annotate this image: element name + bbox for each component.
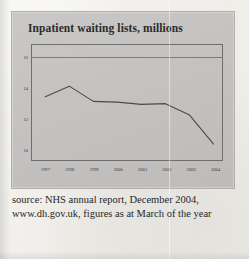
- y-tick-12: 12: [23, 116, 28, 121]
- y-tick-14: 14: [23, 86, 28, 91]
- x-tick-2000: 2000: [114, 167, 123, 172]
- y-tick-16: 16: [23, 55, 28, 60]
- x-tick-2002: 2002: [162, 167, 171, 172]
- bottom-edge-shadow: [0, 251, 249, 259]
- left-edge-shadow: [0, 0, 10, 259]
- x-tick-2003: 2003: [187, 167, 196, 172]
- data-series-line: [32, 45, 222, 161]
- plot-area: 16141210 1997199819992000200120022003200…: [31, 44, 223, 161]
- x-tick-1997: 1997: [41, 167, 50, 172]
- x-tick-1998: 1998: [65, 167, 74, 172]
- y-tick-10: 10: [23, 147, 28, 152]
- chart-figure-panel: Inpatient waiting lists, millions 161412…: [11, 11, 235, 189]
- x-tick-2001: 2001: [138, 167, 147, 172]
- x-tick-2004: 2004: [211, 167, 220, 172]
- source-caption: source: NHS annual report, December 2004…: [12, 193, 227, 221]
- x-tick-1999: 1999: [89, 167, 98, 172]
- chart-title: Inpatient waiting lists, millions: [28, 22, 183, 34]
